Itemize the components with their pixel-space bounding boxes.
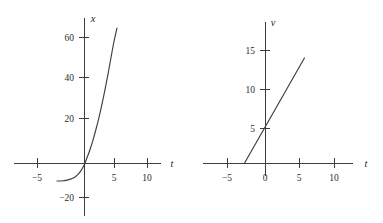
figure-root: −5 5 10 60 40 20 −20 x t −5 0 5 10 15 10 <box>0 0 383 223</box>
right-y-axis-label: v <box>271 17 276 28</box>
right-yticklabel-5: 5 <box>250 124 255 134</box>
chart-velocity-vs-time: −5 0 5 10 15 10 5 v t <box>0 0 383 223</box>
right-xticklabel-10: 10 <box>329 173 339 183</box>
right-xticklabel-5: 5 <box>297 173 302 183</box>
right-xticklabel--5: −5 <box>222 173 232 183</box>
right-x-axis-label: t <box>365 158 369 169</box>
right-xticklabel-0: 0 <box>263 173 268 183</box>
right-yticklabel-15: 15 <box>246 46 256 56</box>
right-yticklabel-10: 10 <box>246 85 256 95</box>
right-data-line <box>245 58 305 163</box>
